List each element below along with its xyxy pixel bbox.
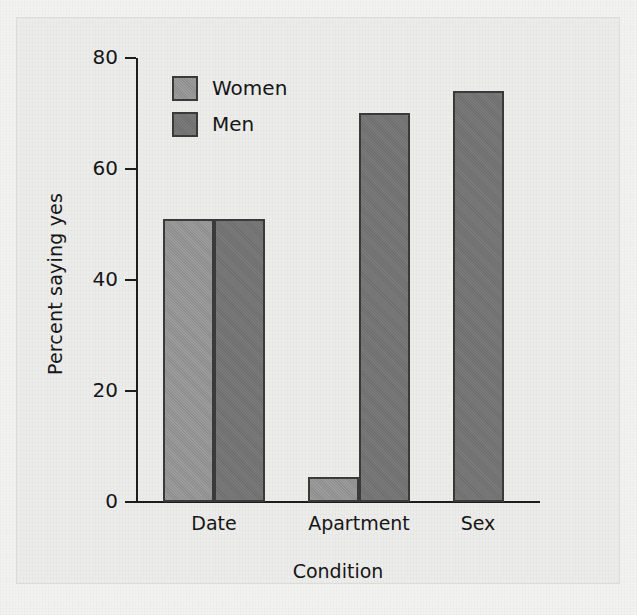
legend-item-women: Women [172, 70, 287, 106]
x-category-label-date: Date [154, 512, 274, 534]
y-tick-40 [125, 279, 136, 281]
y-tick-label-20: 20 [70, 380, 118, 400]
bar-chart-plot: 80 60 40 20 0 Percent saying yes Conditi… [0, 0, 637, 615]
y-tick-label-60: 60 [70, 158, 118, 178]
y-tick-label-80: 80 [70, 47, 118, 67]
y-axis-title: Percent saying yes [44, 174, 66, 394]
bar-apartment-women [308, 477, 359, 502]
y-tick-label-40: 40 [70, 269, 118, 289]
x-category-label-apartment: Apartment [299, 512, 419, 534]
bar-apartment-men [359, 113, 410, 502]
legend-item-men: Men [172, 106, 287, 142]
y-tick-60 [125, 168, 136, 170]
y-tick-label-0: 0 [70, 491, 118, 511]
bar-date-men [214, 219, 265, 502]
figure-container: 80 60 40 20 0 Percent saying yes Conditi… [0, 0, 637, 615]
legend-label-women: Women [212, 78, 287, 98]
legend-label-men: Men [212, 114, 254, 134]
bar-sex-men [453, 91, 504, 502]
y-axis-line [136, 58, 138, 503]
y-tick-80 [125, 57, 136, 59]
chart-legend: Women Men [172, 70, 287, 142]
y-tick-0 [125, 501, 136, 503]
y-tick-20 [125, 390, 136, 392]
x-category-label-sex: Sex [428, 512, 528, 534]
bar-date-women [163, 219, 214, 502]
x-axis-title: Condition [136, 560, 540, 582]
men-swatch-icon [172, 112, 198, 137]
women-swatch-icon [172, 76, 198, 101]
